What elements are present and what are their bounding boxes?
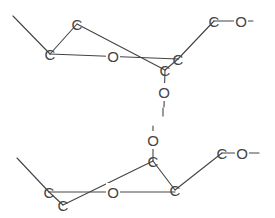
bond [175,153,222,190]
atom-carbon: C [173,51,184,68]
atom-carbon: C [209,13,220,30]
atom-oxygen-side: O [235,13,247,30]
atom-oxygen-bridge: O [158,84,170,101]
chemical-diagram: C C O C C C O O O C C C O C C O [0,0,275,218]
atom-carbon: C [58,197,69,214]
atom-carbon: C [45,46,56,63]
atom-carbon: C [170,182,181,199]
atom-carbon: C [217,145,228,162]
atom-carbon: C [44,184,55,201]
upper-fragment-atoms: C C O C C C O O [45,12,248,101]
atom-carbon: C [148,153,159,170]
lower-fragment-atoms: O C C C O C C O [44,131,249,214]
atom-oxygen-ring: O [107,184,119,201]
atom-oxygen-ring: O [107,48,119,65]
atom-oxygen-side: O [236,145,248,162]
atom-carbon: C [160,62,171,79]
bond [77,24,165,70]
atom-oxygen-bridge: O [147,132,159,149]
atom-carbon: C [72,16,83,33]
